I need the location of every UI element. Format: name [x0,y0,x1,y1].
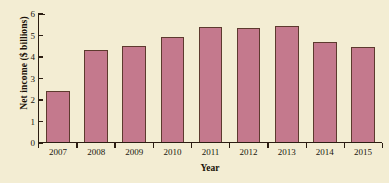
bar-slot [77,14,115,142]
bar-2007 [46,91,70,142]
y-tick-label: 5 [31,31,36,41]
x-tick-label-2012: 2012 [230,147,268,157]
x-tick-label-2008: 2008 [77,147,115,157]
bar-slot [39,14,77,142]
x-tick-label-2007: 2007 [39,147,77,157]
bar-2011 [199,27,223,142]
y-axis-title: Net income ($ billions) [19,0,29,138]
x-tick-label-2014: 2014 [306,147,344,157]
bar-series [39,14,382,142]
y-tick-label: 3 [31,74,36,84]
bar-2013 [275,26,299,142]
bar-slot [153,14,191,142]
x-axis-title: Year [38,163,382,173]
bar-2012 [237,28,261,142]
plot-area: 0123456 [38,14,382,143]
bar-2015 [351,47,375,142]
bar-2014 [313,42,337,142]
x-tick-label-2013: 2013 [268,147,306,157]
y-tick-label: 4 [31,52,36,62]
bar-slot [191,14,229,142]
bar-slot [115,14,153,142]
x-tick-label-2009: 2009 [115,147,153,157]
y-tick-label: 0 [31,138,36,148]
bar-slot [344,14,382,142]
bar-2010 [161,37,185,141]
y-tick-label: 1 [31,117,36,127]
x-axis-tick-labels: 200720082009201020112012201320142015 [39,147,382,157]
y-tick-label: 6 [31,9,36,19]
bar-2009 [122,46,146,142]
bar-2008 [84,50,108,141]
bar-chart-figure: Net income ($ billions) 0123456 20072008… [0,0,389,183]
bar-slot [230,14,268,142]
x-tick-label-2015: 2015 [344,147,382,157]
y-tick-label: 2 [31,95,36,105]
x-tick-label-2011: 2011 [191,147,229,157]
bar-slot [268,14,306,142]
bar-slot [306,14,344,142]
x-tick-mark [382,143,383,148]
x-tick-label-2010: 2010 [153,147,191,157]
